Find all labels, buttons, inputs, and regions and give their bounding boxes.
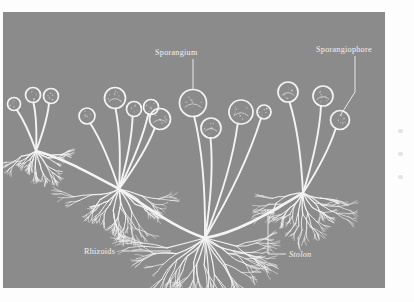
label-sporangiophore: Sporangiophore [316,45,372,54]
spore-speckle [131,107,132,108]
columella-arc [317,97,329,100]
spore-speckle [345,122,346,123]
sporangium-head [44,89,59,104]
spore-speckle [262,114,263,115]
spore-speckle [342,122,343,123]
leader-line-sporangiophore [340,56,355,116]
spore-speckle [185,102,186,103]
spore-speckle [239,113,240,114]
spore-speckle [190,108,191,109]
spore-speckle [319,92,321,94]
sporangiophore-layer [17,102,336,238]
spore-speckle [188,97,189,98]
sporangiophore-stalk [116,109,120,190]
label-rhizoids: Rhizoids [84,247,115,256]
spore-speckle [245,107,246,108]
spore-speckle [114,94,115,95]
spore-speckle [13,100,14,101]
spore-speckle [288,87,289,88]
sporangiophore-stalk [303,129,336,194]
spore-speckle [118,95,119,96]
sporangiophore-stalk [36,103,49,151]
spore-speckle [32,91,33,92]
page-edge-artifact [398,152,403,156]
spore-speckle [166,119,168,121]
spore-speckle [193,106,194,107]
illustration-plate: Sporangium Sporangiophore Rhizoids Stolo… [3,12,385,288]
columella-arc [109,99,122,102]
spore-speckle [117,92,118,93]
page-edge-artifact [398,175,403,179]
spore-speckle [321,101,322,102]
spore-speckle [209,133,210,134]
sporangium-head [105,88,126,109]
spore-speckle [186,101,187,102]
spore-speckle [338,119,339,120]
label-sporangium: Sporangium [155,48,198,57]
rhizopus-diagram: Sporangium Sporangiophore Rhizoids Stolo… [3,12,385,288]
spore-speckle [204,128,206,130]
spore-speckle [134,111,135,112]
spore-speckle [146,104,148,106]
spore-speckle [89,118,90,119]
spore-speckle [264,109,265,110]
spore-speckle [287,98,289,100]
spore-speckle [155,115,156,116]
spore-speckle [266,108,267,109]
spore-speckle [13,106,15,108]
spore-speckle [340,122,341,123]
label-stolon: Stolon [289,250,311,259]
spore-speckle [87,116,89,118]
spore-speckle [240,115,241,116]
spore-speckle [50,92,51,93]
spore-speckle [90,113,91,114]
spore-speckle [210,123,211,124]
page-edge-artifact [398,129,403,133]
spore-speckle [108,98,109,99]
spore-speckle [52,99,54,101]
sporangium-head [331,111,350,130]
spore-speckle [150,107,151,108]
spore-speckle [84,111,85,112]
spore-speckle [190,99,191,100]
sporangiophore-stalk [17,110,36,151]
spore-speckle [213,123,214,124]
spore-speckle [134,105,136,107]
sporangium-head [229,100,253,124]
rhizoid-layer [3,149,358,288]
spore-speckle [164,116,166,118]
spore-speckle [343,118,345,120]
spore-speckle [49,97,50,98]
figure-page: Sporangium Sporangiophore Rhizoids Stolo… [0,0,414,302]
spore-speckle [259,112,260,113]
spore-speckle [115,91,116,92]
spore-speckle [85,114,86,115]
spore-speckle [242,118,244,120]
spore-speckle [201,102,202,103]
sporangium-head [180,90,207,117]
spore-speckle [33,98,34,99]
spore-speckle [165,118,166,119]
sporangium-head [127,102,142,117]
spore-speckle [12,102,13,103]
sporangiophore-stalk [90,123,119,189]
spore-speckle [36,94,37,95]
spore-speckle [291,89,292,90]
spore-speckle [151,108,153,110]
spore-speckle [265,112,266,113]
spore-speckle [235,108,237,110]
spore-speckle [342,123,343,124]
spore-speckle [247,107,248,108]
spore-speckle [153,103,154,104]
spore-speckle [161,122,163,124]
sporangium-head [313,86,333,106]
spore-speckle [326,100,327,101]
spore-speckle [338,120,339,121]
columella-arc [234,113,249,116]
sporangium-head [26,88,41,103]
sporangium-head [8,98,21,111]
spore-speckle [131,108,132,109]
spore-speckle [52,95,54,97]
spore-speckle [235,106,236,107]
spore-speckle [137,110,138,111]
